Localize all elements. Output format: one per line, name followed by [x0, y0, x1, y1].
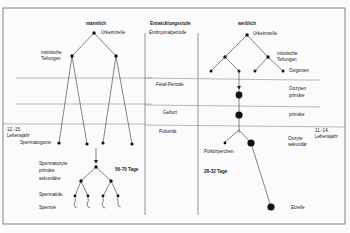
- oocyte-primary-fetal-label: primäre: [289, 93, 305, 98]
- female-arrow-icon: [237, 86, 241, 90]
- spermatocyte-secondary-label: sekundäre: [39, 176, 60, 181]
- oocyte-secondary-label-2: sekundär: [288, 142, 307, 147]
- oogonia-label: Oogonien: [289, 68, 309, 73]
- stage-embryonal: Embryonalperiode: [149, 30, 186, 35]
- polar-body-label: Polkörperchen: [204, 149, 234, 154]
- female-cell-nodes: [210, 33, 285, 210]
- oocyte-primary-birth-label: primäre: [289, 112, 305, 117]
- stage-birth: Geburt: [163, 110, 177, 115]
- male-cell-nodes: [57, 31, 133, 197]
- male-column-title: männlich: [86, 21, 106, 26]
- female-age-label-1: 11.-14.: [315, 128, 329, 133]
- female-duration-label: 28-32 Tage: [204, 169, 227, 174]
- female-column-title: weiblich: [238, 21, 256, 26]
- female-lineage-tree: [211, 35, 283, 207]
- male-mitotic-label-2: Teilungen: [41, 56, 61, 61]
- oocyte-secondary-label-1: Oozyte: [288, 136, 303, 141]
- stage-puberty: Pubertät: [159, 129, 176, 134]
- male-mitotic-label-1: mitotische: [41, 50, 62, 55]
- male-age-label-2: Lebensjahr: [7, 133, 30, 138]
- diagram-canvas: männlich Entwicklungsstufe weiblich Embr…: [0, 0, 350, 233]
- spermatid-label: Spermatide: [39, 192, 63, 197]
- male-lineage-tree: [59, 33, 132, 208]
- female-primordial-cell-label: Urkeimzelle: [253, 31, 277, 36]
- female-mitotic-label-1: mitotische: [277, 51, 298, 56]
- male-age-label-1: 12.-15.: [7, 127, 21, 132]
- male-duration-label: 56-70 Tage: [115, 167, 138, 172]
- spermatogonia-label: Spermatogonie: [20, 140, 51, 145]
- oocyte-label: Oozyten: [289, 86, 306, 91]
- spermatocyte-primary-label: primäre: [39, 168, 55, 173]
- female-age-label-2: Lebensjahr: [315, 134, 338, 139]
- stage-fetal: Fetal-Periode: [156, 82, 184, 87]
- male-arrow-icon: [94, 160, 98, 164]
- spermatocyte-label: Spermatozyte: [39, 161, 67, 166]
- stage-column-title: Entwicklungsstufe: [150, 21, 191, 26]
- male-primordial-cell-label: Urkeimzelle: [101, 30, 125, 35]
- egg-cell-label: Eizelle: [291, 205, 305, 210]
- sperm-label: Spermie: [39, 205, 56, 210]
- female-mitotic-label-2: Teilungen: [277, 57, 297, 62]
